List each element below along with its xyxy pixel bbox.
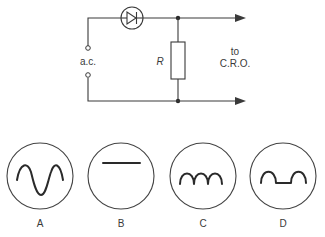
trace-label-A: A: [37, 218, 44, 229]
trace-label-C: C: [199, 218, 206, 229]
top-output-arrow-icon: [235, 14, 246, 22]
bottom-output-arrow-icon: [235, 97, 246, 105]
bottom-wire: [88, 78, 235, 101]
top-left-wire: [88, 18, 121, 46]
trace-label-B: B: [118, 218, 125, 229]
ac-terminal-lower-icon: [86, 73, 91, 78]
trace-A: [7, 143, 73, 209]
trace-C: [170, 143, 236, 209]
trace-B: [88, 143, 154, 209]
diode-icon: [121, 7, 143, 29]
output-label-cro: C.R.O.: [220, 58, 251, 69]
trace-D: [250, 143, 316, 209]
resistor-icon: [171, 42, 185, 79]
resistor-label: R: [156, 56, 163, 67]
output-label-to: to: [231, 46, 239, 57]
ac-source-label: a.c.: [80, 56, 96, 67]
diagram: a.c. R to C.R.O. A B C D: [0, 0, 325, 237]
trace-label-D: D: [279, 218, 286, 229]
circuit-and-traces-svg: [0, 0, 325, 237]
circuit-diagram: [86, 7, 246, 105]
ac-terminal-upper-icon: [86, 46, 91, 51]
